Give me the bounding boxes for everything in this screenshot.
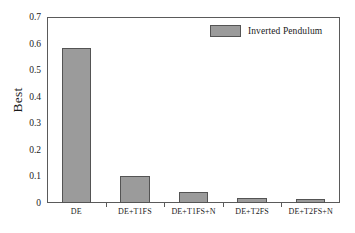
y-tick-label: 0.4 — [0, 91, 47, 103]
bar-chart-figure: Best 00.10.20.30.40.50.60.7 DEDE+T1FSDE+… — [0, 0, 355, 233]
bar-de-t2fs-n — [296, 199, 325, 203]
x-tick-mark — [281, 203, 282, 207]
y-axis-ticks: 00.10.20.30.40.50.60.7 — [0, 0, 47, 220]
y-tick-label: 0.1 — [0, 170, 47, 182]
x-tick-mark — [106, 203, 107, 207]
bar-de-t1fs-n — [179, 192, 208, 203]
x-tick-label: DE — [71, 207, 82, 216]
x-tick-label: DE+T2FS+N — [289, 207, 333, 216]
y-tick-label: 0.7 — [0, 11, 47, 23]
plot-area — [47, 17, 340, 203]
bar-de-t2fs — [237, 198, 266, 203]
bar-de — [62, 48, 91, 203]
y-tick-label: 0.5 — [0, 64, 47, 76]
y-tick-label: 0.6 — [0, 38, 47, 50]
x-tick-label: DE+T1FS+N — [171, 207, 215, 216]
x-tick-mark — [223, 203, 224, 207]
chart-legend: Inverted Pendulum — [206, 23, 326, 39]
y-tick-label: 0.3 — [0, 117, 47, 129]
x-tick-mark — [164, 203, 165, 207]
x-tick-label: DE+T2FS — [235, 207, 269, 216]
legend-label: Inverted Pendulum — [248, 26, 322, 36]
y-tick-label: 0 — [0, 197, 47, 209]
legend-swatch-icon — [210, 25, 241, 37]
bar-de-t1fs — [120, 176, 149, 203]
x-tick-label: DE+T1FS — [118, 207, 152, 216]
y-tick-label: 0.2 — [0, 144, 47, 156]
